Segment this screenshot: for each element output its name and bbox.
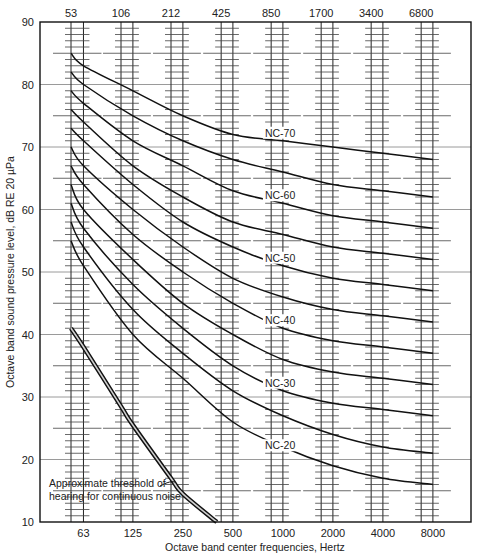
x-axis-top-ticks: 53106212425850170034006800 xyxy=(65,7,434,19)
x-bottom-tick-label: 8000 xyxy=(421,527,445,539)
y-axis-ticks: 102030405060708090 xyxy=(22,16,34,528)
x-axis-title: Octave band center frequencies, Hertz xyxy=(165,541,345,553)
nc-curves-chart: 102030405060708090 531062124258501700340… xyxy=(0,0,479,560)
x-top-tick-label: 212 xyxy=(162,7,180,19)
x-top-tick-label: 850 xyxy=(262,7,280,19)
x-top-tick-label: 53 xyxy=(65,7,77,19)
x-bottom-tick-label: 1000 xyxy=(271,527,295,539)
y-axis-title: Octave band sound pressure level, dB RE … xyxy=(4,156,16,388)
x-bottom-tick-label: 250 xyxy=(174,527,192,539)
x-bottom-tick-label: 63 xyxy=(77,527,89,539)
nc-curves xyxy=(71,53,433,484)
x-top-tick-label: 425 xyxy=(212,7,230,19)
y-tick-label: 40 xyxy=(22,329,34,341)
x-axis-bottom-ticks: 631252505001000200040008000 xyxy=(77,527,445,539)
y-tick-label: 10 xyxy=(22,516,34,528)
curve-label: NC-50 xyxy=(265,252,296,264)
curve-label: NC-40 xyxy=(265,314,296,326)
x-bottom-tick-label: 2000 xyxy=(321,527,345,539)
x-bottom-tick-label: 4000 xyxy=(371,527,395,539)
curve-label: NC-30 xyxy=(265,377,296,389)
curve-label: NC-20 xyxy=(265,439,296,451)
curve-label: NC-60 xyxy=(265,189,296,201)
y-tick-label: 90 xyxy=(22,16,34,28)
x-bottom-tick-label: 125 xyxy=(124,527,142,539)
x-top-tick-label: 1700 xyxy=(309,7,333,19)
x-top-tick-label: 3400 xyxy=(359,7,383,19)
nc-curve xyxy=(71,53,433,159)
nc-curve xyxy=(71,222,433,453)
y-tick-label: 70 xyxy=(22,141,34,153)
threshold-label-line2: hearing for continuous noise xyxy=(49,490,181,502)
threshold-label-line1: Approximate threshold of xyxy=(49,477,166,489)
x-top-tick-label: 6800 xyxy=(409,7,433,19)
y-tick-label: 30 xyxy=(22,391,34,403)
y-tick-label: 50 xyxy=(22,266,34,278)
y-tick-label: 60 xyxy=(22,204,34,216)
y-tick-label: 80 xyxy=(22,79,34,91)
curve-label: NC-70 xyxy=(265,127,296,139)
x-top-tick-label: 106 xyxy=(112,7,130,19)
x-bottom-tick-label: 500 xyxy=(224,527,242,539)
y-tick-label: 20 xyxy=(22,454,34,466)
